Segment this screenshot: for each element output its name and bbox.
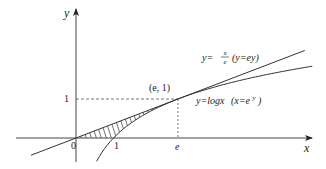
hatch-line bbox=[173, 96, 187, 140]
log-eq-alt-close: ) bbox=[257, 95, 262, 107]
log-eq-main: y=logx bbox=[195, 95, 225, 106]
log-curve-series bbox=[97, 66, 313, 161]
x-tick-label-1: 1 bbox=[114, 140, 119, 151]
log-equation-label: y=logx (x=e y ) bbox=[195, 91, 262, 107]
x-tick-label-e: e bbox=[175, 141, 180, 152]
hatch-line bbox=[68, 96, 82, 140]
tangent-eq-lhs: y= bbox=[201, 52, 213, 63]
tangent-point-text: (e, 1) bbox=[149, 82, 170, 94]
diagram-canvas: y x 0 1 e 1 (e, 1) y= x e (y=ey) y=logx … bbox=[0, 0, 326, 169]
y-tick-label-1: 1 bbox=[64, 93, 69, 104]
tangent-point-label: (e, 1) bbox=[149, 82, 170, 94]
tangent-eq-denominator: e bbox=[223, 58, 226, 66]
hatch-line bbox=[148, 96, 162, 140]
hatch-line bbox=[153, 96, 167, 140]
hatch-line bbox=[73, 96, 87, 140]
hatch-line bbox=[78, 96, 92, 140]
hatch-line bbox=[143, 96, 157, 140]
log-eq-alt-sup: y bbox=[251, 94, 256, 102]
origin-label: 0 bbox=[71, 140, 76, 151]
tangent-equation-label: y= x e (y=ey) bbox=[201, 49, 259, 66]
tangent-eq-alt: (y=ey) bbox=[232, 52, 259, 64]
x-axis-label: x bbox=[303, 141, 310, 155]
tangent-eq-numerator: x bbox=[222, 49, 227, 57]
log-eq-alt-open: (x=e bbox=[231, 95, 251, 107]
y-axis-label: y bbox=[63, 6, 70, 20]
hatch-line bbox=[138, 96, 152, 140]
